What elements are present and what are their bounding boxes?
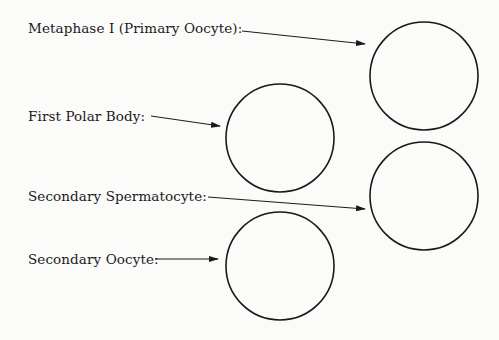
circles-layer	[226, 22, 478, 320]
metaphase-i-arrow	[242, 31, 365, 44]
first-polar-body-arrow	[151, 116, 220, 126]
secondary-spermatocyte-circle	[370, 142, 478, 250]
diagram-canvas	[0, 0, 499, 340]
metaphase-i-circle	[370, 22, 478, 130]
secondary-oocyte-circle	[226, 212, 334, 320]
secondary-spermatocyte-arrow	[208, 197, 365, 209]
first-polar-body-circle	[226, 84, 334, 192]
